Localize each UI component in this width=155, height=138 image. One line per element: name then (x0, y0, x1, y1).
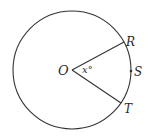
point-S-dot (130, 70, 133, 73)
circle-diagram: O x° R S T (0, 0, 155, 138)
radius-OT (72, 70, 121, 103)
label-center-O: O (58, 63, 69, 78)
label-point-S: S (134, 65, 142, 79)
label-point-R: R (125, 35, 135, 49)
radius-OR (72, 42, 124, 70)
label-point-T: T (124, 102, 133, 116)
label-angle-x: x° (82, 64, 93, 75)
